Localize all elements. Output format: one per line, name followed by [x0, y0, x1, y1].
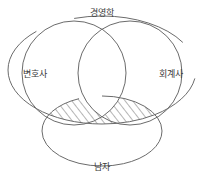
business-set-label: 경영학	[0, 9, 204, 18]
accountant-set-label: 회계사	[148, 70, 194, 79]
shaded-region-hatch	[0, 0, 204, 186]
male-set-label: 남자	[0, 163, 204, 172]
venn-diagram-figure: 경영학 변호사 회계사 남자	[0, 0, 204, 186]
lawyer-set-label: 변호사	[12, 70, 58, 79]
venn-diagram-canvas	[0, 0, 204, 186]
